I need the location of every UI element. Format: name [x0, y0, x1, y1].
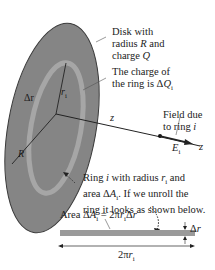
disk-label: Disk with radius R and charge Q	[112, 26, 165, 62]
field-label: Field due to ring i	[163, 109, 202, 133]
delta-r-disk-label: Δr	[24, 92, 34, 104]
disk-leader	[96, 37, 106, 42]
E-arrowhead	[184, 139, 193, 145]
R-label: R	[18, 148, 24, 160]
ri-label: ri	[61, 86, 67, 102]
delta-r-label: Δr	[190, 223, 201, 235]
area-label: Area ΔAi = 2πriΔr	[60, 209, 137, 225]
E-label: Ei	[172, 142, 180, 158]
length-label: 2πri	[118, 249, 135, 265]
disk-diagram	[0, 0, 215, 270]
unrolled-strip	[60, 230, 195, 236]
z-label-2: z	[199, 141, 203, 153]
z-label-1: z	[110, 112, 114, 124]
ring-charge-label: The charge of the ring is ΔQi	[112, 66, 173, 94]
